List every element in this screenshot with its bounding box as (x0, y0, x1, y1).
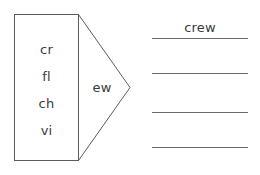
worksheet-canvas: cr fl ch vi ew crew (0, 0, 260, 175)
onset-label-cr: cr (14, 43, 79, 56)
onset-box-outline (15, 15, 79, 161)
onset-label-fl: fl (14, 70, 79, 83)
onset-label-ch: ch (14, 97, 79, 110)
rime-label-ew: ew (82, 81, 122, 94)
onset-label-vi: vi (14, 124, 79, 137)
answer-value-1[interactable]: crew (152, 21, 248, 34)
